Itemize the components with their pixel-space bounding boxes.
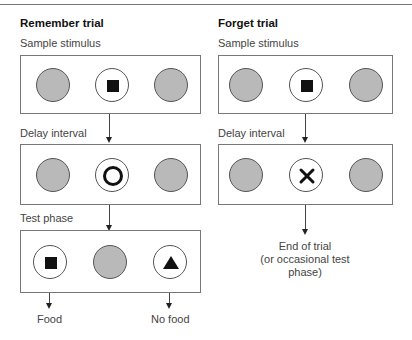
triangle-stimulus-icon — [153, 245, 187, 279]
arrow-line — [305, 114, 306, 138]
square-stimulus-icon — [289, 68, 323, 102]
square-stimulus-icon — [95, 68, 129, 102]
forget-sample-box — [218, 55, 393, 114]
remember-test-label: Test phase — [20, 212, 73, 224]
gray-disc-icon — [36, 68, 70, 102]
arrow-down-icon — [302, 229, 308, 235]
ring-stimulus-icon — [95, 158, 129, 192]
forget-delay-box — [218, 144, 393, 205]
end-of-trial-text: End of trial (or occasional test phase) — [250, 240, 360, 279]
remember-delay-label: Delay interval — [20, 127, 87, 139]
remember-sample-label: Sample stimulus — [20, 37, 101, 49]
gray-disc-icon — [349, 68, 383, 102]
gray-disc-icon — [36, 158, 70, 192]
forget-sample-label: Sample stimulus — [218, 37, 299, 49]
outcome-no-food: No food — [151, 313, 190, 325]
remember-delay-box — [20, 144, 201, 205]
gray-disc-icon — [154, 158, 188, 192]
gray-disc-icon — [93, 245, 127, 279]
arrow-down-icon — [302, 137, 308, 143]
arrow-line — [109, 114, 110, 138]
outcome-food: Food — [37, 313, 62, 325]
gray-disc-icon — [229, 68, 263, 102]
remember-sample-box — [20, 55, 201, 114]
arrow-down-icon — [166, 303, 172, 309]
square-stimulus-icon — [33, 245, 67, 279]
remember-test-box — [20, 230, 201, 293]
arrow-line — [109, 205, 110, 227]
gray-disc-icon — [349, 158, 383, 192]
arrow-down-icon — [46, 303, 52, 309]
top-rule — [0, 4, 412, 5]
end-line-3: phase) — [250, 266, 360, 279]
gray-disc-icon — [229, 158, 263, 192]
arrow-line — [305, 205, 306, 231]
end-line-1: End of trial — [250, 240, 360, 253]
arrow-down-icon — [106, 137, 112, 143]
end-line-2: (or occasional test — [250, 253, 360, 266]
forget-delay-label: Delay interval — [218, 127, 285, 139]
gray-disc-icon — [154, 68, 188, 102]
forget-trial-title: Forget trial — [218, 17, 278, 29]
remember-trial-title: Remember trial — [20, 17, 104, 29]
x-stimulus-icon — [289, 158, 323, 192]
